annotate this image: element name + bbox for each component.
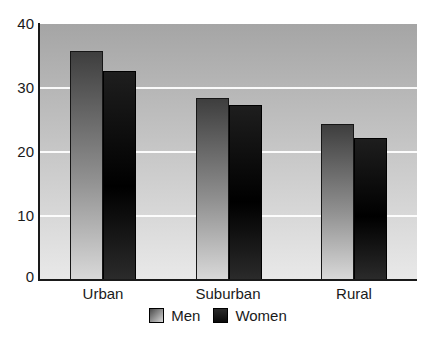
bar-women-urban [103, 71, 136, 280]
category-label-urban: Urban [40, 285, 166, 302]
y-tick-label-0: 0 [0, 268, 34, 286]
bar-men-urban [70, 51, 103, 280]
y-tick-label-20: 20 [0, 143, 34, 161]
women-legend-swatch-icon [213, 308, 228, 323]
legend: Men Women [0, 306, 436, 324]
legend-label-men: Men [171, 307, 200, 324]
plot-area [40, 24, 417, 280]
bar-men-rural [321, 124, 354, 280]
legend-item-women: Women [213, 307, 286, 324]
bar-men-suburban [196, 98, 229, 280]
legend-label-women: Women [235, 307, 286, 324]
bar-women-rural [354, 138, 387, 280]
bar-women-suburban [229, 105, 262, 280]
bar-chart-figure: 40 30 20 10 0 Urban Suburban Rural Men W… [0, 0, 436, 339]
category-label-suburban: Suburban [165, 285, 291, 302]
men-legend-swatch-icon [149, 308, 164, 323]
x-axis-line [38, 279, 417, 281]
category-label-rural: Rural [291, 285, 417, 302]
y-tick-label-30: 30 [0, 79, 34, 97]
y-tick-label-10: 10 [0, 207, 34, 225]
y-axis-line [38, 23, 40, 281]
y-tick-label-40: 40 [0, 15, 34, 33]
legend-item-men: Men [149, 307, 200, 324]
